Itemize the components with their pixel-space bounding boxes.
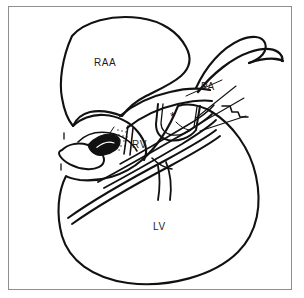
label-pa: PA — [201, 81, 215, 92]
label-rv: RV — [132, 139, 147, 150]
rv-annulus-tick — [110, 127, 114, 133]
label-raa: RAA — [94, 57, 116, 68]
aortic-arch-tip — [249, 59, 283, 63]
pa-branch-notch — [222, 106, 248, 117]
figure-root: RAA PA RV LV * — [0, 0, 304, 298]
label-lv: LV — [153, 221, 166, 232]
heart-diagram-icon — [0, 0, 304, 298]
asterisk-marker-icon: * — [170, 112, 175, 122]
rv-incision-wedge — [88, 134, 120, 155]
coronary-branch-descending-left — [158, 166, 160, 200]
coronary-tertiary-line — [120, 105, 214, 164]
